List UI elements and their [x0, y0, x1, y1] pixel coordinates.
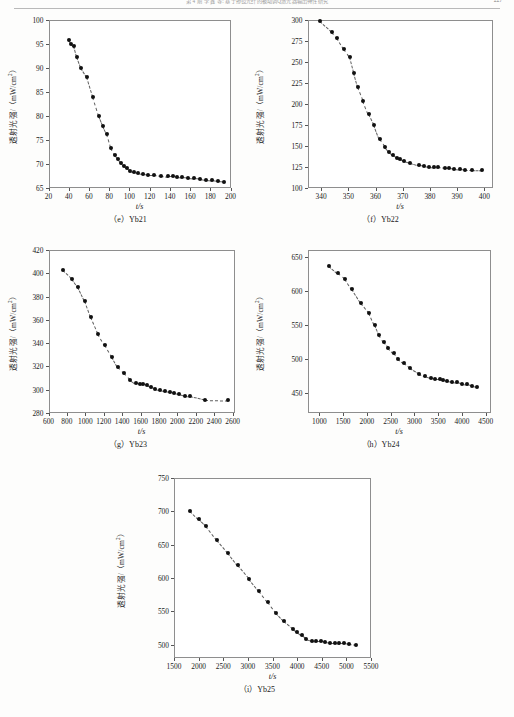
x-axis-title: t/s [138, 427, 146, 436]
y-tick-label: 300 [291, 16, 302, 25]
y-tick-label: 200 [291, 100, 302, 109]
data-point [310, 639, 314, 643]
data-point [359, 301, 363, 305]
x-tick-label: 2000 [170, 417, 185, 426]
data-point [72, 44, 76, 48]
y-tick-label: 250 [291, 58, 302, 67]
data-point [356, 85, 360, 89]
data-point [166, 174, 170, 178]
y-axis-title: 透射光强/（mW/cm2） [254, 250, 266, 413]
y-tick-label: 85 [36, 88, 43, 97]
y-tick-label: 650 [158, 540, 169, 549]
data-point [188, 394, 192, 398]
x-tick-label: 2500 [383, 417, 398, 426]
y-tick [305, 167, 308, 168]
x-tick [190, 188, 191, 191]
y-tick-label: 380 [32, 292, 43, 301]
data-point [458, 167, 462, 171]
panel-caption-i: （i）Yb25 [112, 683, 402, 694]
data-point [97, 114, 101, 118]
data-point [85, 75, 89, 79]
data-point [128, 378, 132, 382]
panel-caption-h: （h）Yb24 [252, 438, 510, 449]
y-axis-title: 透射光强/（mW/cm2） [7, 20, 19, 188]
y-tick-label: 95 [36, 40, 43, 49]
data-point [172, 391, 176, 395]
y-tick-label: 125 [291, 163, 302, 172]
x-tick [109, 188, 110, 191]
y-tick [305, 325, 308, 326]
data-point [475, 385, 479, 389]
data-point [198, 177, 202, 181]
plot-area-f [308, 20, 493, 188]
x-tick [348, 188, 349, 191]
y-tick [46, 320, 49, 321]
data-point [152, 173, 156, 177]
figure-grid: 2040608010012014016018020065707580859095… [0, 12, 514, 717]
x-tick [177, 413, 178, 416]
data-point [408, 161, 412, 165]
data-point [226, 398, 230, 402]
y-tick-label: 100 [32, 16, 43, 25]
x-tick-label: 2000 [360, 417, 375, 426]
x-tick [343, 413, 344, 416]
y-tick [46, 250, 49, 251]
figure-panel-g: 6008001000120014001600180020002200240026… [5, 240, 252, 468]
plot-area-e [49, 20, 231, 188]
data-point [188, 509, 192, 513]
y-axis-title-text: 透射光强/（mW/cm2） [115, 529, 126, 607]
y-tick-label: 80 [36, 112, 43, 121]
plot-area-g [49, 250, 235, 413]
y-tick-label: 400 [32, 269, 43, 278]
data-point [386, 346, 390, 350]
x-tick-label: 3500 [431, 417, 446, 426]
y-tick-label: 100 [291, 184, 302, 193]
x-tick [233, 413, 234, 416]
data-point [163, 389, 167, 393]
data-point [336, 271, 340, 275]
x-tick-label: 1500 [336, 417, 351, 426]
y-tick [171, 511, 174, 512]
x-tick [141, 413, 142, 416]
x-tick [484, 188, 485, 191]
chart-e: 2040608010012014016018020065707580859095… [5, 12, 252, 240]
x-tick [214, 413, 215, 416]
y-axis-title-text: 透射光强/（mW/cm2） [7, 292, 18, 370]
y-axis-title: 透射光强/（mW/cm2） [7, 250, 19, 413]
x-tick-label: 4500 [314, 662, 329, 671]
y-tick-label: 420 [32, 246, 43, 255]
y-tick-label: 300 [32, 385, 43, 394]
x-tick-label: 1500 [167, 662, 182, 671]
data-point [304, 637, 308, 641]
x-tick [486, 413, 487, 416]
data-point [89, 315, 93, 319]
figure-panel-h: 1000150020002500300035004000450045050055… [252, 240, 510, 468]
figure-row-1: 2040608010012014016018020065707580859095… [0, 12, 514, 240]
data-point [226, 551, 230, 555]
y-tick [305, 125, 308, 126]
x-axis-title: t/s [269, 672, 277, 681]
x-tick [297, 658, 298, 661]
x-tick-label: 80 [105, 192, 112, 201]
y-tick [46, 273, 49, 274]
data-point [175, 175, 179, 179]
x-tick-label: 5000 [339, 662, 354, 671]
data-point [327, 264, 331, 268]
data-point [463, 168, 467, 172]
data-point [367, 112, 371, 116]
header-rule [14, 8, 500, 9]
data-point [122, 371, 126, 375]
data-point [427, 165, 431, 169]
x-tick [438, 413, 439, 416]
data-point [186, 176, 190, 180]
data-point [159, 174, 163, 178]
data-point [460, 382, 464, 386]
data-point [455, 380, 459, 384]
x-tick-label: 1400 [115, 417, 130, 426]
x-axis-title: t/s [136, 202, 144, 211]
chart-h: 1000150020002500300035004000450045050055… [252, 240, 510, 468]
x-tick [371, 658, 372, 661]
x-tick-label: 800 [61, 417, 72, 426]
x-tick-label: 380 [424, 192, 435, 201]
x-tick [199, 658, 200, 661]
